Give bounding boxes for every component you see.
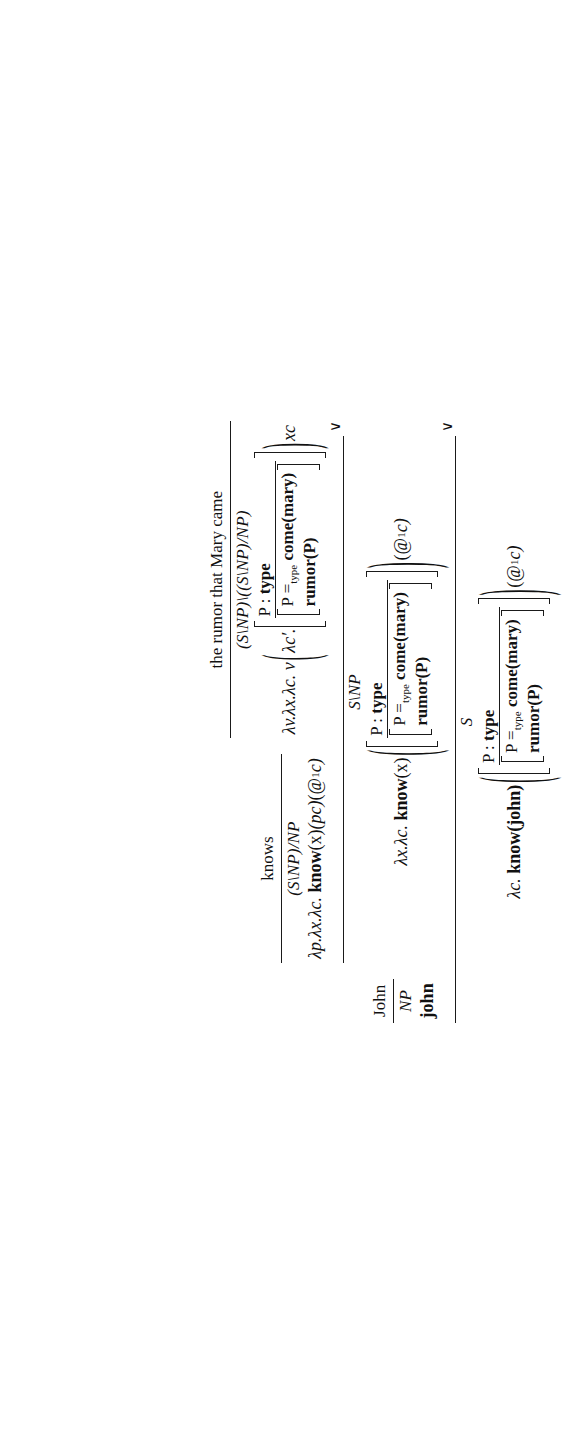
knows-lambda-prefix: λp.λx.λc. bbox=[305, 897, 326, 959]
s-drs-bracket-left bbox=[478, 768, 550, 774]
paren-close-s: ) bbox=[461, 590, 566, 596]
leaf-bar-knows bbox=[281, 754, 282, 962]
drs-box-outer: P : type P =type come(mary) bbox=[254, 452, 326, 628]
rumor-tail-xc: xc bbox=[279, 425, 300, 441]
s-drs-box-outer: P : type P =type come(mary) bbox=[478, 598, 550, 774]
category-s: S bbox=[456, 712, 477, 733]
s-drs-cond1-eq: = bbox=[502, 730, 521, 740]
rumor-lambda-prefix: λv.λx.λc. bbox=[279, 675, 300, 735]
drs-universe-sep: : bbox=[255, 594, 274, 607]
leaf-rumor-phrase: the rumor that Mary came (S\NP)\((S\NP)/… bbox=[207, 421, 328, 738]
s-drs-condition-1: P =type come(mary) bbox=[502, 619, 523, 753]
drs-inner-bracket-left bbox=[277, 609, 320, 615]
vp-drs-inner-bracket: P =type come(mary) rumor(P) bbox=[389, 583, 432, 735]
leaf-john: John NP john bbox=[370, 979, 440, 1023]
vp-drs-cond1-lhs: P bbox=[390, 713, 409, 726]
vp-rule-bar: ∨ bbox=[328, 421, 344, 963]
knows-arg-pc: (pc) bbox=[305, 800, 326, 829]
s-drs-cond1-lhs: P bbox=[502, 740, 521, 753]
vp-drs-box-outer: P : type P =type come(mary) bbox=[366, 571, 438, 747]
drs-condition-1: P =type come(mary) bbox=[278, 473, 299, 607]
vp-drs-inner-bracket-right bbox=[389, 583, 432, 589]
word-rumor-phrase: the rumor that Mary came bbox=[207, 485, 228, 675]
vp-drs-bracket-right bbox=[366, 571, 438, 577]
s-drs-inner-bracket-right bbox=[501, 610, 544, 616]
s-head: know bbox=[504, 832, 525, 874]
drs-bracket-right bbox=[254, 452, 326, 458]
leaf-knows: knows (S\NP)/NP λp.λx.λc. know (x) (pc) … bbox=[258, 754, 328, 962]
paren-close-vp: ) bbox=[349, 562, 455, 568]
s-children: John NP john knows (S\NP)/NP bbox=[207, 421, 440, 1023]
semantics-rumor-phrase: λv.λx.λc. v ( λc′. bbox=[253, 421, 328, 738]
semantics-john: john bbox=[416, 979, 440, 1022]
vp-drs-universe: P : type bbox=[367, 580, 389, 738]
paren-close-rumor: ) bbox=[247, 443, 333, 449]
knows-at-sub: 1 bbox=[309, 772, 322, 778]
derivation-node-vp: knows (S\NP)/NP λp.λx.λc. know (x) (pc) … bbox=[207, 421, 440, 963]
vp-lambda-prefix: λx.λc. bbox=[391, 825, 412, 866]
drs-universe-var: P bbox=[255, 608, 274, 617]
knows-at-open: (@ bbox=[305, 778, 326, 801]
vp-drs-cond1-eq: = bbox=[390, 703, 409, 713]
rumor-inner-lambda: λc′. bbox=[279, 628, 300, 652]
s-lambda-prefix: λc. bbox=[504, 878, 525, 898]
semantics-s: λc. know (john) ( P : type bbox=[477, 542, 552, 903]
drs-conditions: P =type come(mary) rumor(P) bbox=[276, 461, 325, 619]
s-rule-bar: ∨ bbox=[440, 421, 456, 1023]
drs-bracket-left bbox=[254, 621, 326, 627]
s-at-sub: 1 bbox=[508, 560, 521, 566]
drs-condition-2: rumor(P) bbox=[300, 473, 320, 607]
vp-children: knows (S\NP)/NP λp.λx.λc. know (x) (pc) … bbox=[207, 421, 328, 963]
knows-arg-x: (x) bbox=[305, 829, 326, 850]
s-drs-conditions: P =type come(mary) rumor(P) bbox=[500, 607, 549, 765]
semantics-knows: λp.λx.λc. know (x) (pc) (@1c) bbox=[304, 754, 328, 962]
drs-cond1-rhs: come(mary) bbox=[278, 473, 297, 565]
vp-arg-x: (x) bbox=[391, 757, 412, 778]
vp-drs-inner-bracket-left bbox=[389, 729, 432, 735]
vp-drs-condition-1: P =type come(mary) bbox=[390, 592, 411, 726]
vp-drs-cond2-text: rumor(P) bbox=[412, 657, 431, 726]
category-vp: S\NP bbox=[344, 668, 365, 716]
vp-at-sub: 1 bbox=[395, 532, 408, 538]
vp-drs-box-content: P : type P =type come(mary) bbox=[366, 577, 438, 741]
leaf-bar-john bbox=[393, 979, 394, 1023]
paren-open-s: ( bbox=[461, 777, 566, 783]
s-drs-universe-var: P bbox=[479, 754, 498, 763]
word-knows: knows bbox=[258, 830, 279, 886]
drs-inner-bracket: P =type come(mary) rumor(P) bbox=[277, 464, 320, 616]
category-np: NP bbox=[395, 984, 416, 1018]
vp-drs-universe-type: type bbox=[367, 683, 386, 714]
drs-cond1-eq: = bbox=[278, 584, 297, 594]
s-drs-cond2-text: rumor(P) bbox=[524, 684, 543, 753]
s-at-open: (@ bbox=[504, 565, 525, 588]
s-drs-condition-2: rumor(P) bbox=[524, 619, 544, 753]
s-rule-label: ∨ bbox=[440, 421, 456, 436]
vp-drs-inner-content: P =type come(mary) rumor(P) bbox=[389, 589, 432, 729]
category-rumor-arg: (S\NP)\((S\NP)/NP) bbox=[232, 504, 253, 655]
s-drs-box-content: P : type P =type come(mary) bbox=[478, 604, 550, 768]
semantics-john-text: john bbox=[417, 983, 438, 1018]
vp-at-tail: c) bbox=[391, 518, 412, 532]
rumor-var-v: v bbox=[279, 662, 300, 670]
knows-at-tail: c) bbox=[305, 758, 326, 772]
s-arg-john: (john) bbox=[504, 785, 525, 832]
drs-inner-bracket-right bbox=[277, 464, 320, 470]
leaf-bar-rumor-phrase bbox=[230, 421, 231, 738]
semantics-vp: λx.λc. know (x) ( P : type bbox=[365, 514, 440, 869]
s-at-tail: c) bbox=[504, 546, 525, 560]
s-drs-universe-type: type bbox=[479, 710, 498, 741]
vp-at-open: (@ bbox=[391, 538, 412, 561]
s-drs-cond1-rhs: come(mary) bbox=[502, 619, 521, 711]
drs-cond1-eq-sub: type bbox=[287, 565, 299, 584]
vp-drs-condition-2: rumor(P) bbox=[412, 592, 432, 726]
vp-head: know bbox=[391, 778, 412, 820]
vp-drs-cond1-rhs: come(mary) bbox=[390, 592, 409, 684]
word-john: John bbox=[370, 979, 391, 1023]
category-tv: (S\NP)/NP bbox=[283, 815, 304, 902]
drs-universe-type: type bbox=[255, 563, 274, 594]
vp-drs-cond1-eq-sub: type bbox=[399, 684, 411, 703]
paren-open-rumor: ( bbox=[247, 655, 333, 661]
s-drs-inner-bracket: P =type come(mary) rumor(P) bbox=[501, 610, 544, 762]
drs-inner-content: P =type come(mary) rumor(P) bbox=[277, 470, 320, 610]
